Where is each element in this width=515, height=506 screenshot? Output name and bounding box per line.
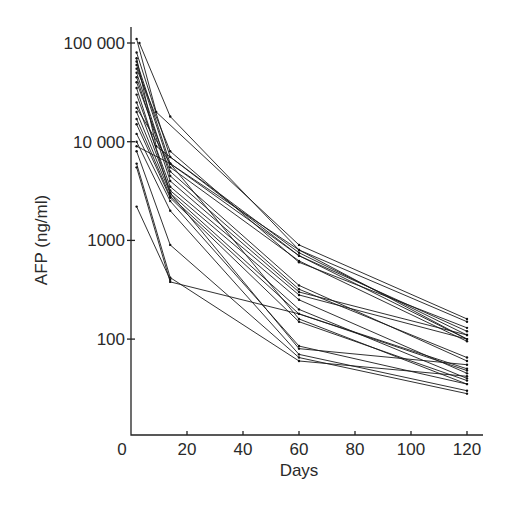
data-point (466, 369, 468, 371)
data-point (135, 87, 137, 89)
data-point (135, 107, 137, 109)
data-point (298, 321, 300, 323)
data-point (169, 170, 171, 172)
data-point (466, 364, 468, 366)
data-point (298, 254, 300, 256)
afp-line-chart: 100100010 000100 000020406080100120 Days… (0, 0, 515, 506)
series-line (135, 166, 468, 372)
data-point (466, 390, 468, 392)
data-point (298, 360, 300, 362)
series-line (135, 205, 171, 280)
data-point (466, 340, 468, 342)
series-line (135, 57, 468, 332)
x-tick-label: 20 (178, 440, 197, 459)
data-point (135, 162, 137, 164)
y-axis-title: AFP (ng/ml) (32, 195, 51, 285)
data-point (135, 123, 137, 125)
data-point (298, 313, 300, 315)
data-point (298, 284, 300, 286)
data-point (135, 76, 137, 78)
data-point (135, 145, 137, 147)
axes (131, 27, 483, 435)
series-line (135, 101, 468, 374)
x-tick-label: 120 (453, 440, 481, 459)
data-point (135, 111, 137, 113)
series-line (135, 133, 468, 386)
data-point (466, 372, 468, 374)
data-point (298, 294, 300, 296)
data-point (135, 166, 137, 168)
data-point (135, 57, 137, 59)
y-tick-label: 10 000 (73, 133, 125, 152)
data-point (135, 133, 137, 135)
data-point (135, 81, 137, 83)
data-point (135, 72, 137, 74)
data-point (466, 360, 468, 362)
data-point (466, 334, 468, 336)
data-point (138, 42, 140, 44)
data-point (298, 261, 300, 263)
series-line (135, 93, 468, 340)
data-point (298, 308, 300, 310)
data-point (298, 353, 300, 355)
data-point (298, 347, 300, 349)
data-point (466, 379, 468, 381)
data-point (169, 150, 171, 152)
data-point (298, 249, 300, 251)
x-tick-label: 100 (397, 440, 425, 459)
series-line (135, 123, 468, 382)
series-line (135, 87, 468, 366)
data-point (135, 38, 137, 40)
data-point (135, 141, 137, 143)
data-point (169, 115, 171, 117)
data-point (135, 93, 137, 95)
series-line (135, 72, 468, 359)
ticks: 100100010 000100 000020406080100120 (64, 34, 482, 459)
x-tick-label: 80 (346, 440, 365, 459)
data-point (169, 162, 171, 164)
series-line (135, 38, 468, 320)
data-point (298, 356, 300, 358)
data-point (135, 51, 137, 53)
data-point (298, 288, 300, 290)
data-point (466, 330, 468, 332)
data-point (298, 318, 300, 320)
data-point (135, 118, 137, 120)
series-line (135, 67, 468, 329)
y-tick-label: 1000 (87, 231, 125, 250)
series-line (135, 60, 468, 340)
data-point (169, 180, 171, 182)
series-group (135, 38, 468, 395)
data-point (135, 101, 137, 103)
data-point (169, 281, 171, 283)
data-point (169, 200, 171, 202)
data-point (466, 377, 468, 379)
data-point (466, 392, 468, 394)
data-point (298, 244, 300, 246)
data-point (466, 383, 468, 385)
data-point (298, 291, 300, 293)
data-point (298, 299, 300, 301)
data-point (169, 209, 171, 211)
data-point (298, 345, 300, 347)
x-tick-label: 40 (234, 440, 253, 459)
data-point (298, 252, 300, 254)
series-line (135, 118, 468, 370)
data-point (169, 244, 171, 246)
data-point (466, 321, 468, 323)
y-tick-label: 100 000 (64, 34, 125, 53)
data-point (466, 338, 468, 340)
x-tick-label: 0 (117, 440, 126, 459)
data-point (169, 278, 171, 280)
series-line (138, 42, 468, 323)
y-tick-label: 100 (97, 330, 125, 349)
axis-lines (131, 27, 483, 435)
x-tick-label: 60 (290, 440, 309, 459)
series-line (135, 162, 468, 377)
data-point (169, 175, 171, 177)
data-point (169, 192, 171, 194)
data-point (135, 150, 137, 152)
data-point (466, 375, 468, 377)
x-axis-title: Days (280, 461, 319, 480)
data-point (466, 356, 468, 358)
